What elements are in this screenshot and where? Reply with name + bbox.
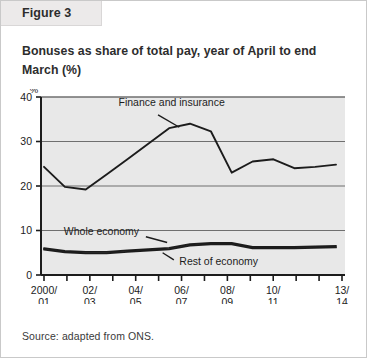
series-label-finance-and-insurance: Finance and insurance — [119, 96, 225, 108]
line-chart-svg: 010203040 2000/0102/0304/0506/0708/0910/… — [1, 89, 367, 304]
y-axis-tick-label: 30 — [20, 135, 32, 147]
x-axis-tick-label: 02/ — [83, 284, 98, 296]
x-axis-tick-label: 2000/ — [31, 284, 57, 296]
chart-plot-area: 010203040 2000/0102/0304/0506/0708/0910/… — [1, 89, 367, 304]
figure-panel: Figure 3 Bonuses as share of total pay, … — [0, 0, 367, 358]
series-label-rest-of-economy: Rest of economy — [179, 255, 259, 267]
figure-tab: Figure 3 — [1, 1, 102, 26]
x-axis-tick-label: 04/ — [128, 284, 143, 296]
x-axis-tick-label: 11 — [268, 296, 279, 304]
y-axis-tick-label: 10 — [20, 224, 32, 236]
x-axis-tick-label: 10/ — [266, 284, 281, 296]
x-axis-tick-label: 14 — [336, 296, 348, 304]
x-axis-tick-label: 05 — [130, 296, 142, 304]
y-axis-ticks: 010203040 — [20, 91, 41, 281]
x-axis-tick-label: 07 — [176, 296, 188, 304]
x-axis-tick-label: 09 — [222, 296, 234, 304]
x-axis-tick-labels: 2000/0102/0304/0506/0708/0910/1113/14 — [31, 284, 350, 304]
x-axis-tick-label: 01 — [38, 296, 50, 304]
series-label-whole-economy: Whole economy — [64, 225, 140, 237]
x-axis-tick-label: 13/ — [335, 284, 350, 296]
source-note: Source: adapted from ONS. — [22, 330, 154, 342]
x-axis-tick-label: 08/ — [220, 284, 235, 296]
figure-number-label: Figure 3 — [22, 6, 71, 20]
x-axis-tick-label: 06/ — [174, 284, 189, 296]
y-axis-unit-label: % — [30, 89, 39, 95]
y-axis-tick-label: 20 — [20, 180, 32, 192]
y-axis-tick-label: 0 — [26, 269, 32, 281]
chart-title: Bonuses as share of total pay, year of A… — [22, 42, 342, 80]
x-axis-tick-label: 03 — [84, 296, 96, 304]
